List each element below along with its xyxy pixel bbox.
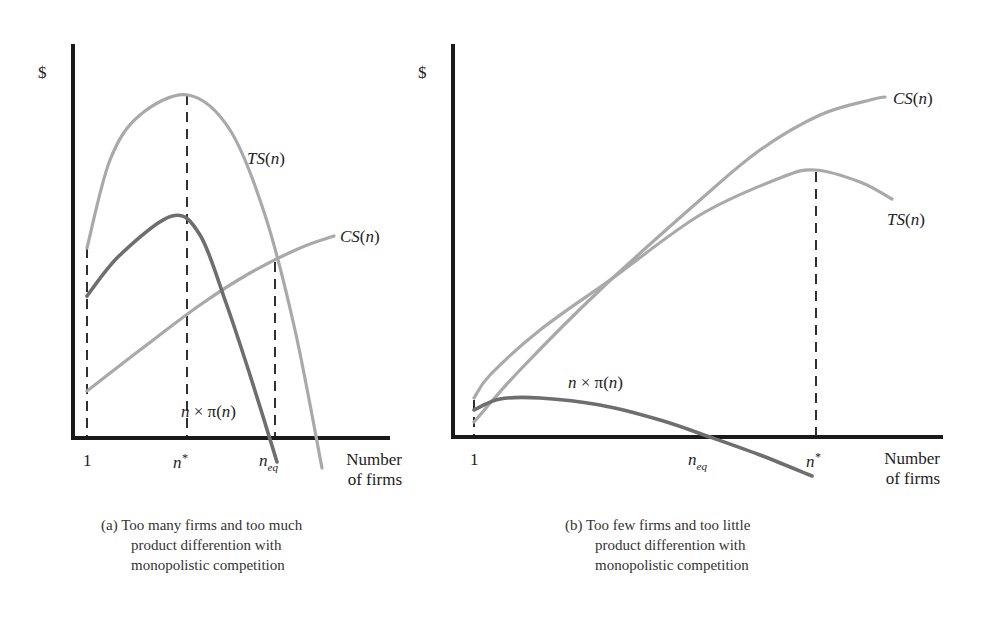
star: *: [815, 450, 821, 464]
caption-line: (a) Too many firms and too much: [101, 517, 302, 533]
n-var: n: [568, 373, 577, 392]
xlabel-line2: of firms: [348, 470, 402, 489]
ts-fn: TS: [887, 210, 905, 229]
chart-b-ts-label: TS(n): [887, 211, 925, 228]
n-var: n: [173, 453, 182, 472]
chart-a-tick-nstar: n*: [173, 452, 188, 471]
chart-b-y-label: $: [418, 64, 427, 81]
chart-a-tick-neq: neq: [259, 452, 278, 473]
caption-line: monopolistic competition: [565, 555, 750, 575]
chart-b-ts-curve: [474, 170, 892, 398]
eq-sub: eq: [268, 461, 278, 473]
chart-b-tick-1: 1: [470, 451, 479, 468]
times-pi: × π(: [190, 402, 222, 421]
paren: ): [919, 210, 925, 229]
chart-b-tick-neq: neq: [688, 451, 707, 472]
chart-b-caption: (b) Too few firms and too little product…: [565, 515, 750, 575]
caption-line: monopolistic competition: [101, 555, 302, 575]
xlabel-line1: Number: [884, 449, 940, 468]
caption-line: product differention with: [565, 535, 750, 555]
xlabel-line2: of firms: [886, 469, 940, 488]
cs-fn: CS: [893, 89, 913, 108]
caption-line: product differention with: [101, 535, 302, 555]
chart-b-cs-curve: [474, 97, 885, 422]
chart-a-y-label: $: [38, 64, 47, 81]
times-pi: × π(: [577, 373, 609, 392]
cs-fn: CS: [340, 227, 360, 246]
paren: ): [230, 402, 236, 421]
chart-b-x-label: Numberof firms: [856, 449, 940, 489]
paren: ): [927, 89, 933, 108]
caption-line: (b) Too few firms and too little: [565, 517, 750, 533]
eq-sub: eq: [697, 460, 707, 472]
chart-a-profit-label: n × π(n): [181, 403, 236, 420]
n-var: n: [806, 452, 815, 471]
chart-b-tick-nstar: n*: [806, 451, 821, 470]
chart-b-profit-label: n × π(n): [568, 374, 623, 391]
n-var: n: [366, 227, 375, 246]
paren: ): [279, 149, 285, 168]
chart-a-caption: (a) Too many firms and too much product …: [101, 515, 302, 575]
chart-a-tick-1: 1: [83, 452, 92, 469]
chart-b-cs-label: CS(n): [893, 90, 933, 107]
paren: ): [617, 373, 623, 392]
xlabel-line1: Number: [346, 450, 402, 469]
n-var: n: [919, 89, 928, 108]
ts-fn: TS: [247, 149, 265, 168]
chart-a-ts-label: TS(n): [247, 150, 285, 167]
chart-b-axes: [453, 46, 941, 437]
chart-a-profit-curve: [87, 215, 277, 462]
n-var: n: [259, 451, 268, 470]
n-var: n: [911, 210, 920, 229]
star: *: [182, 451, 188, 465]
chart-a-cs-label: CS(n): [340, 228, 380, 245]
chart-a-x-label: Numberof firms: [318, 450, 402, 490]
paren: ): [374, 227, 380, 246]
n-var: n: [181, 402, 190, 421]
n-var: n: [271, 149, 280, 168]
n-var: n: [688, 450, 697, 469]
